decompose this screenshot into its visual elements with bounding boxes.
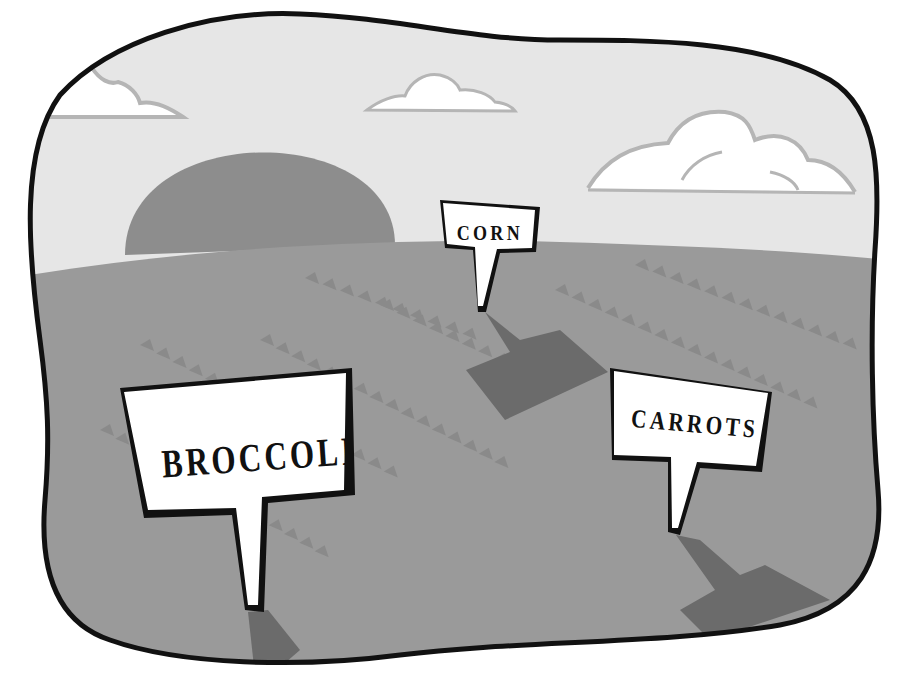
sign-corn-label: CORN	[457, 220, 523, 244]
scene-clip: CORN BROCCOLI CARROTS	[0, 0, 907, 676]
farm-illustration: CORN BROCCOLI CARROTS	[0, 0, 907, 676]
